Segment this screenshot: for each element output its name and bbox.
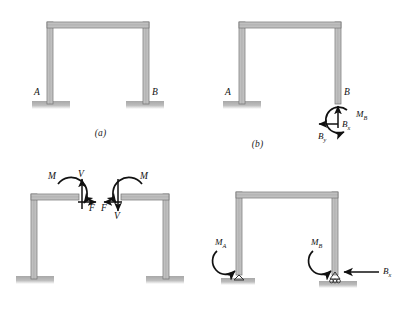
ground-left [221, 278, 255, 285]
shear-label-left: V [78, 170, 84, 180]
force-label-bx: Bx [342, 120, 350, 131]
moment-label-left: M [48, 172, 56, 182]
moment-ma-arc [213, 251, 235, 274]
frame-member-left-column [31, 194, 37, 279]
support-label-b: B [152, 88, 158, 98]
support-label-a: A [225, 88, 231, 98]
panel-a-caption: (a) [0, 128, 201, 138]
frame-member-right-column [163, 194, 169, 279]
panel-b-drawing [201, 0, 402, 158]
frame-member-left-column [47, 22, 53, 104]
frame-member-beam-left-segment [31, 194, 79, 200]
point-label-b: B [344, 88, 350, 98]
ground-right [319, 281, 357, 288]
panel-d: MA MB Bx (d) [201, 159, 402, 317]
frame-member-beam [236, 192, 338, 198]
frame-member-beam [47, 22, 149, 28]
frame-member-left-column [239, 22, 245, 104]
shear-label-right: V [114, 212, 120, 222]
frame-member-right-column [332, 192, 338, 275]
panel-a: A B (a) [0, 0, 201, 158]
frame-member-left-column [236, 192, 242, 275]
frame-member-beam [239, 22, 341, 28]
axial-label-left: F [89, 204, 95, 214]
panel-c-figure: M V F M V F [0, 159, 201, 317]
support-label-a: A [34, 88, 40, 98]
moment-label-mb: MB [356, 110, 367, 121]
panel-b: A B MB Bx By (b) [201, 0, 402, 158]
panel-b-figure: A B MB Bx By [201, 0, 402, 158]
moment-label-right: M [140, 172, 148, 182]
axial-label-right: F [101, 204, 107, 214]
panel-d-drawing [201, 159, 402, 317]
panel-b-caption: (b) [157, 139, 358, 149]
panel-c: M V F M V F (c) [0, 159, 201, 317]
panel-c-drawing [0, 159, 201, 317]
moment-label-ma: MA [215, 238, 226, 249]
frame-member-right-column [143, 22, 149, 104]
frame-member-right-column [335, 22, 341, 104]
moment-label-mb: MB [311, 238, 322, 249]
frame-member-beam-right-segment [121, 194, 169, 200]
panel-d-figure: MA MB Bx [201, 159, 402, 317]
force-label-bx: Bx [383, 267, 391, 278]
moment-mb-arc [309, 251, 331, 274]
